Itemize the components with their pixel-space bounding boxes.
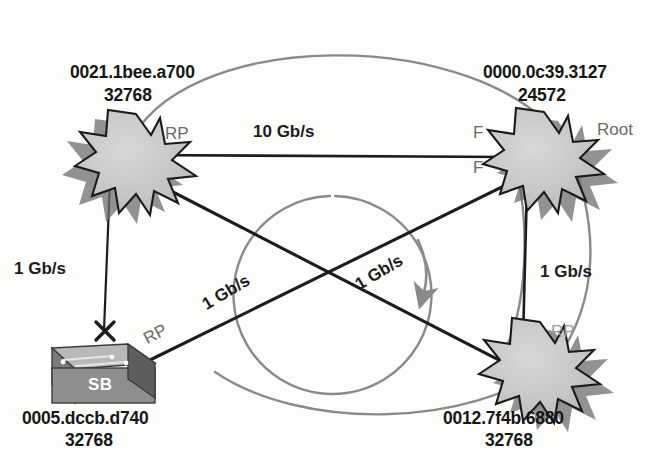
link-top-speed-label: 10 Gb/s xyxy=(253,122,314,142)
link-top-line xyxy=(133,155,520,157)
switch-badge-label: SB xyxy=(88,375,113,395)
link-diagonal-b-line xyxy=(140,175,528,375)
diagram-canvas: 0021.1bee.a700 32768 0000.0c39.3127 2457… xyxy=(0,0,654,475)
node-top-right-mac-label: 0000.0c39.3127 xyxy=(483,62,607,83)
node-bottom-right-mac-label: 0012.7f4b.6880 xyxy=(443,408,564,429)
node-top-right-priority-label: 24572 xyxy=(518,85,566,106)
port-bottom-right-rp-label: RP xyxy=(551,322,575,342)
node-top-right-root-label: Root xyxy=(597,120,633,140)
link-left-vertical-speed-label: 1 Gb/s xyxy=(14,259,66,279)
port-top-left-rp-label: RP xyxy=(165,124,189,144)
port-top-right-f-upper-label: F xyxy=(473,123,483,143)
node-bottom-left-priority-label: 32768 xyxy=(65,430,113,451)
node-top-left-priority-label: 32768 xyxy=(104,85,152,106)
port-top-right-f-lower-label: F xyxy=(473,158,483,178)
switch-led-3 xyxy=(124,361,129,366)
link-diagonal-a-line xyxy=(150,178,520,360)
switch-led-2 xyxy=(110,355,115,360)
loop-circle-inner xyxy=(233,196,431,394)
switch-led-1 xyxy=(61,360,66,365)
link-right-vertical-speed-label: 1 Gb/s xyxy=(540,262,592,282)
node-bottom-left-mac-label: 0005.dccb.d740 xyxy=(22,408,149,429)
node-top-left-mac-label: 0021.1bee.a700 xyxy=(70,62,195,83)
node-bottom-right-priority-label: 32768 xyxy=(485,430,533,451)
